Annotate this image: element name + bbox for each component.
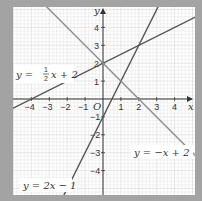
y-tick-label: −1 xyxy=(90,112,100,122)
x-tick-label: −3 xyxy=(42,102,52,112)
x-tick-label: 2 xyxy=(136,102,141,112)
x-tick-label: −2 xyxy=(60,102,70,112)
x-axis-label: x xyxy=(188,101,194,112)
equation-label-2x-minus-1: y = 2x − 1 xyxy=(20,178,77,192)
x-tick-label: −4 xyxy=(24,102,34,112)
equation-prefix: y = xyxy=(15,69,33,80)
x-tick-label: 4 xyxy=(172,102,177,112)
y-tick-label: 1 xyxy=(94,77,99,87)
origin-label: O xyxy=(93,101,101,112)
equation-label-neg-x-plus-2: y = −x + 2 xyxy=(131,145,193,159)
y-tick-label: −3 xyxy=(90,148,100,158)
x-tick-label: 3 xyxy=(154,102,159,112)
fraction-denominator: 2 xyxy=(44,75,48,82)
y-tick-label: 3 xyxy=(94,41,99,51)
fraction-numerator: 1 xyxy=(44,66,48,73)
y-tick-label: 4 xyxy=(94,23,99,33)
equation-text: y = −x + 2 xyxy=(133,147,190,158)
y-tick-label: −4 xyxy=(90,166,100,176)
equation-text: y = 2x − 1 xyxy=(22,180,77,191)
x-tick-label: −1 xyxy=(78,102,88,112)
y-axis-label: y xyxy=(93,5,100,16)
x-tick-label: 1 xyxy=(118,102,123,112)
equation-label-half-x-plus-2: y = 1 2 x + 2 xyxy=(14,65,78,83)
equation-suffix: x + 2 xyxy=(51,69,78,80)
line-graph: −4−3−2−112344321−1−2−3−4 y x O y = 1 2 x… xyxy=(0,0,202,201)
